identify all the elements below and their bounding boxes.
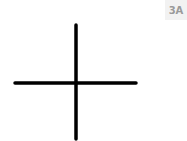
plus-cross-icon xyxy=(0,0,187,141)
